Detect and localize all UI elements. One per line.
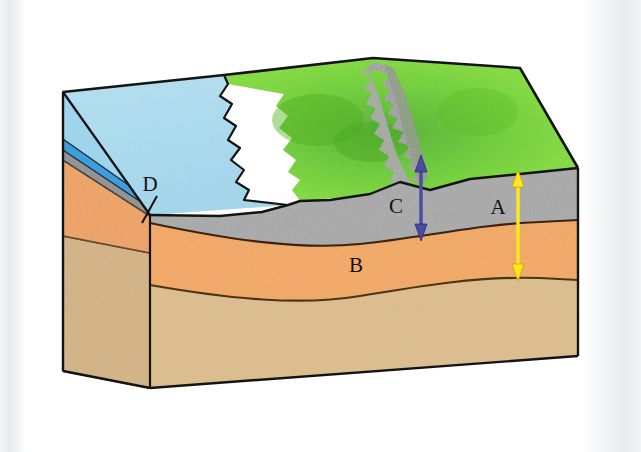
- vegetation-shade-blob-3: [438, 88, 518, 136]
- label-d: D: [142, 172, 157, 196]
- diagram-stage: D C A B: [0, 0, 641, 452]
- label-c: C: [389, 194, 403, 218]
- earth-layers-block-diagram: D C A B: [0, 0, 641, 452]
- label-b: B: [349, 253, 363, 277]
- label-a: A: [490, 195, 506, 219]
- left-face-tan: [63, 236, 150, 388]
